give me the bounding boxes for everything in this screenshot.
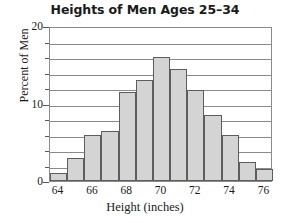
- bar: [153, 57, 170, 181]
- y-axis-tick-label: 10: [32, 98, 44, 110]
- bar: [84, 135, 101, 182]
- y-axis-tick-label: 20: [32, 20, 44, 32]
- x-axis-tick-label: 72: [182, 184, 208, 196]
- x-axis-title: Height (inches): [0, 200, 290, 215]
- bar: [256, 169, 273, 181]
- plot-area: [49, 27, 272, 182]
- bar: [222, 135, 239, 182]
- bar: [204, 115, 221, 181]
- x-axis-labels: 64666870727476: [49, 184, 272, 200]
- x-axis-tick-label: 76: [250, 184, 276, 196]
- bar: [239, 162, 256, 181]
- x-axis-tick-label: 70: [148, 184, 174, 196]
- bars-layer: [50, 28, 271, 181]
- bar: [119, 92, 136, 181]
- y-axis-title: Percent of Men: [17, 6, 32, 126]
- x-axis-tick-label: 66: [79, 184, 105, 196]
- y-axis-major-tick: [43, 182, 49, 183]
- bar: [67, 158, 84, 181]
- bar: [136, 80, 153, 181]
- chart-title: Heights of Men Ages 25–34: [0, 2, 290, 17]
- bar: [187, 90, 204, 181]
- x-axis-tick-label: 74: [216, 184, 242, 196]
- bar: [50, 173, 67, 181]
- x-axis-tick-label: 68: [113, 184, 139, 196]
- bar: [170, 69, 187, 181]
- histogram-figure: Heights of Men Ages 25–34 Percent of Men…: [0, 0, 290, 223]
- x-axis-tick-label: 64: [45, 184, 71, 196]
- bar: [101, 131, 118, 181]
